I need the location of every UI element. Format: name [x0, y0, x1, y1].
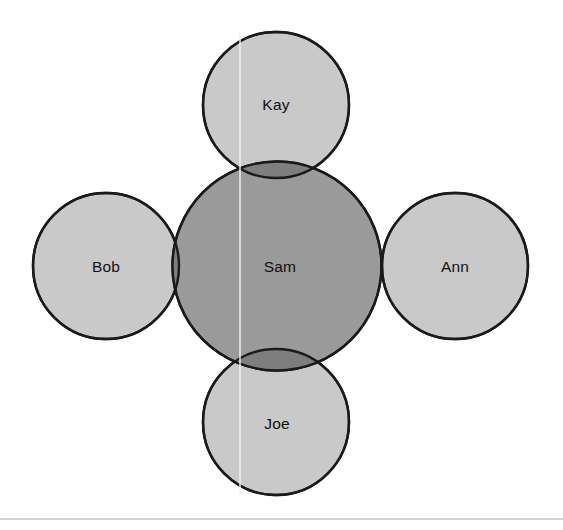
label-ann: Ann [441, 258, 469, 275]
label-bob: Bob [92, 258, 120, 275]
venn-diagram-canvas: Kay Bob Ann Joe Sam [0, 0, 563, 530]
label-kay: Kay [262, 96, 289, 113]
label-sam: Sam [264, 258, 296, 275]
label-joe: Joe [264, 415, 290, 432]
venn-diagram-container: Kay Bob Ann Joe Sam [0, 0, 563, 530]
